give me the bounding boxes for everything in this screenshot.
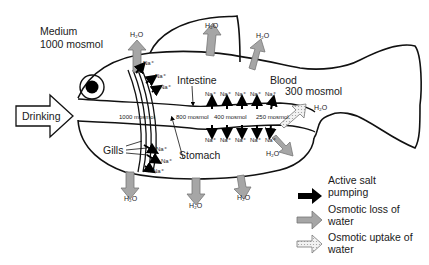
- na-label: Na⁺: [161, 158, 172, 164]
- gill-arches: [128, 70, 156, 172]
- na-label: Na⁺: [205, 137, 216, 143]
- gradient-stomach: 800 mosmol: [176, 114, 209, 120]
- legend-black-arrow-icon: [298, 188, 322, 204]
- h2o-label: H₂O: [237, 194, 250, 201]
- h2o-label: H₂O: [130, 31, 143, 38]
- h2o-label: H₂O: [124, 195, 137, 202]
- na-label: Na⁺: [205, 91, 216, 97]
- h2o-label: H₂O: [256, 32, 269, 39]
- drinking-label: Drinking: [22, 111, 61, 122]
- na-label: Na⁺: [143, 60, 154, 66]
- fish-osmoregulation-diagram: Medium 1000 mosmol Blood 300 mosmol Drin…: [0, 0, 429, 265]
- gradient-intestine-mid: 400 mosmol: [214, 114, 247, 120]
- legend-osmotic-loss-line1: Osmotic loss of: [328, 204, 400, 215]
- na-label: Na⁺: [235, 137, 246, 143]
- na-label: Na⁺: [265, 91, 276, 97]
- blood-label: Blood: [270, 75, 297, 86]
- h2o-label: H₂O: [266, 150, 279, 157]
- fish-body-outline: [78, 16, 421, 179]
- gills-label: Gills: [103, 145, 123, 156]
- na-label: Na⁺: [220, 137, 231, 143]
- legend-active-salt-line1: Active salt: [328, 175, 376, 186]
- legend-gray-arrow-icon: [297, 211, 322, 229]
- legend-active-salt-line2: pumping: [328, 187, 368, 198]
- na-label: Na⁺: [156, 146, 167, 152]
- na-label: Na⁺: [265, 137, 276, 143]
- legend-osmotic-loss-line2: water: [328, 216, 354, 227]
- na-label: Na⁺: [250, 137, 261, 143]
- na-label: Na⁺: [220, 91, 231, 97]
- intestine-label: Intestine: [177, 75, 217, 86]
- na-label: Na⁺: [153, 168, 164, 174]
- h2o-label: H₂O: [314, 104, 327, 111]
- na-label: Na⁺: [160, 84, 171, 90]
- medium-label: Medium: [40, 26, 77, 37]
- stomach-label: Stomach: [179, 150, 220, 161]
- blood-osmolarity: 300 mosmol: [285, 86, 342, 97]
- gradient-stomach-entry: 1000 mosmol: [119, 114, 155, 120]
- na-label: Na⁺: [235, 91, 246, 97]
- legend-osmotic-uptake-line2: water: [328, 244, 354, 255]
- legend-icons: [297, 188, 322, 253]
- legend-dotted-arrow-icon: [297, 235, 322, 253]
- na-label: Na⁺: [155, 73, 166, 79]
- medium-osmolarity: 1000 mosmol: [40, 39, 103, 50]
- gradient-intestine-end: 250 mosmol: [256, 114, 289, 120]
- h2o-label: H₂O: [189, 202, 202, 209]
- na-label: Na⁺: [250, 91, 261, 97]
- legend-osmotic-uptake-line1: Osmotic uptake of: [328, 232, 413, 243]
- h2o-label: H₂O: [205, 22, 218, 29]
